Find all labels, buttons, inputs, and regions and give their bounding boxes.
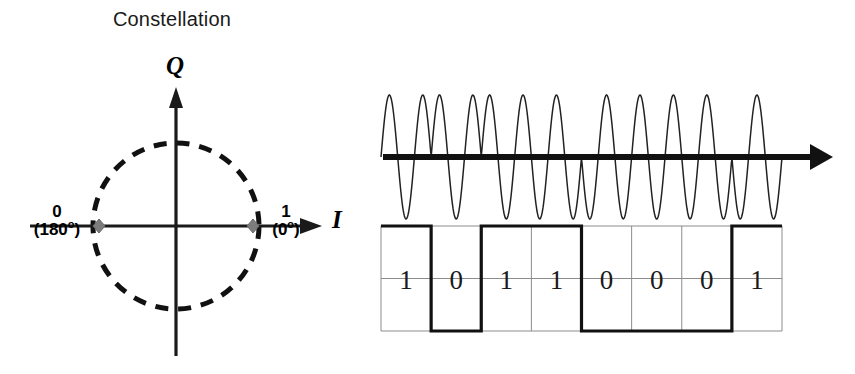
phase-close-paren: ) — [294, 220, 300, 239]
bit-digit: 1 — [481, 265, 531, 296]
bit-digit: 0 — [682, 265, 732, 296]
constellation-label-0-phase: (180o) — [18, 221, 96, 239]
time-axis-arrow-icon — [810, 144, 833, 170]
constellation-label-0-bit: 0 — [18, 203, 96, 221]
q-axis-arrow-icon — [169, 87, 183, 108]
bit-digit: 1 — [732, 265, 782, 296]
constellation-label-1-phase: (0o) — [255, 221, 317, 239]
bit-digit: 0 — [632, 265, 682, 296]
constellation-label-1-bit: 1 — [255, 203, 317, 221]
bit-digit: 0 — [582, 265, 632, 296]
bit-digit: 1 — [381, 265, 431, 296]
figure-root: Constellation Q I 0 (180o) 1 (0o) — [0, 0, 855, 374]
phase-open-paren: (180 — [34, 220, 68, 239]
bit-digit: 1 — [531, 265, 581, 296]
signal-plot — [360, 0, 855, 374]
phase-close-paren: ) — [75, 220, 81, 239]
constellation-plot — [0, 0, 360, 374]
signal-panel: 10110001 — [360, 0, 855, 374]
phase-open-paren: (0 — [272, 220, 287, 239]
constellation-label-0: 0 (180o) — [18, 203, 96, 239]
degree-icon: o — [68, 218, 75, 230]
bit-digit: 0 — [431, 265, 481, 296]
constellation-label-1: 1 (0o) — [255, 203, 317, 239]
constellation-panel: Constellation Q I 0 (180o) 1 (0o) — [0, 0, 360, 374]
